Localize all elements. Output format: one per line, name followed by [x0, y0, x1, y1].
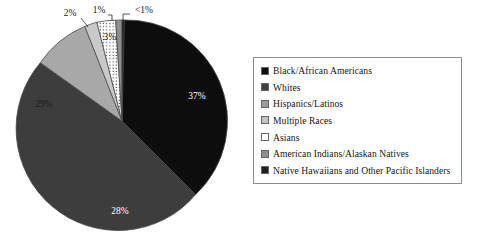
- legend-label: Whites: [273, 82, 300, 93]
- legend-swatch-icon: [261, 166, 269, 174]
- pie-chart-area: 37% 28% 29% 3% 2% 1% <1%: [0, 0, 239, 233]
- legend-list: Black/African Americans Whites Hispanics…: [261, 63, 455, 178]
- leader-line-multiple-races: [81, 18, 88, 27]
- legend-label: Black/African Americans: [273, 65, 372, 76]
- pie-chart-figure: 37% 28% 29% 3% 2% 1% <1% Black/African A…: [0, 0, 478, 233]
- chart-legend: Black/African Americans Whites Hispanics…: [253, 57, 462, 184]
- legend-swatch-icon: [261, 100, 269, 108]
- pie-label-native-hawaiians: <1%: [135, 5, 153, 15]
- legend-label: American Indians/Alaskan Natives: [273, 148, 409, 159]
- legend-item-multiple-races: Multiple Races: [261, 113, 455, 128]
- legend-swatch-icon: [261, 116, 269, 124]
- legend-item-native-hawaiians: Native Hawaiians and Other Pacific Islan…: [261, 163, 455, 178]
- legend-item-hispanics: Hispanics/Latinos: [261, 96, 455, 111]
- pie-label-american-indians: 1%: [93, 5, 106, 15]
- pie-label-multiple-races: 2%: [64, 8, 77, 18]
- pie-label-whites: 28%: [111, 206, 129, 216]
- legend-swatch-icon: [261, 133, 269, 141]
- legend-item-american-indians: American Indians/Alaskan Natives: [261, 146, 455, 161]
- legend-item-black-african: Black/African Americans: [261, 63, 455, 78]
- pie-label-black-african: 37%: [188, 91, 206, 101]
- legend-label: Hispanics/Latinos: [273, 98, 343, 109]
- pie-label-asians: 3%: [104, 32, 117, 42]
- pie-svg: 37% 28% 29% 3% 2% 1% <1%: [0, 0, 239, 233]
- legend-item-asians: Asians: [261, 130, 455, 145]
- legend-item-whites: Whites: [261, 80, 455, 95]
- pie-label-hispanics: 29%: [35, 99, 53, 109]
- legend-label: Multiple Races: [273, 115, 332, 126]
- legend-swatch-icon: [261, 67, 269, 75]
- legend-label: Native Hawaiians and Other Pacific Islan…: [273, 165, 450, 176]
- legend-swatch-icon: [261, 83, 269, 91]
- leader-line-native-hawaiians: [123, 14, 130, 20]
- legend-swatch-icon: [261, 150, 269, 158]
- legend-label: Asians: [273, 132, 299, 143]
